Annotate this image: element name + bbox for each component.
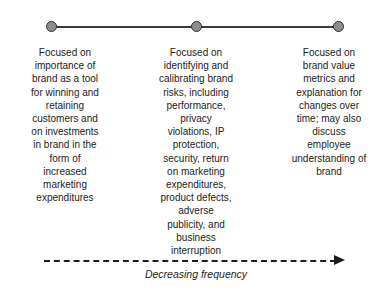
timeline-segment-2 — [196, 26, 338, 28]
timeline-node-1 — [46, 21, 57, 32]
frequency-arrow-caption: Decreasing frequency — [0, 268, 392, 280]
timeline-axis — [0, 0, 392, 44]
stage-description-2: Focused on identifying and calibrating b… — [136, 46, 256, 257]
dashed-arrow-line — [44, 260, 336, 262]
timeline-node-2 — [191, 21, 202, 32]
stage-description-1: Focused on importance of brand as a tool… — [8, 46, 122, 204]
frequency-arrow-group: Decreasing frequency — [0, 252, 392, 292]
stage-description-3: Focused on brand value metrics and expla… — [272, 46, 386, 178]
timeline-segment-1 — [51, 26, 196, 28]
timeline-node-3 — [333, 21, 344, 32]
arrow-head-icon — [334, 255, 345, 265]
